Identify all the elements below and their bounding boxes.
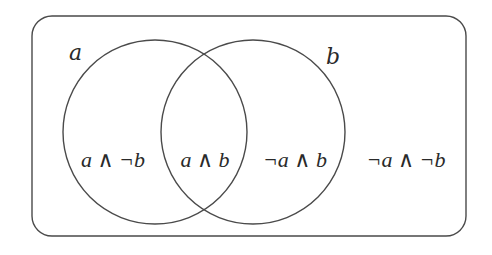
set-a-circle bbox=[63, 40, 247, 224]
region-b-only-label: ¬a ∧ b bbox=[263, 147, 327, 172]
region-neither-label: ¬a ∧ ¬b bbox=[367, 147, 446, 172]
set-a-label: a bbox=[69, 40, 82, 65]
set-b-label: b bbox=[326, 44, 340, 69]
set-b-circle bbox=[161, 40, 345, 224]
region-a-only-label: a ∧ ¬b bbox=[81, 147, 145, 172]
region-a-and-b-label: a ∧ b bbox=[180, 147, 229, 172]
venn-diagram: a b a ∧ ¬b a ∧ b ¬a ∧ b ¬a ∧ ¬b bbox=[0, 0, 492, 255]
